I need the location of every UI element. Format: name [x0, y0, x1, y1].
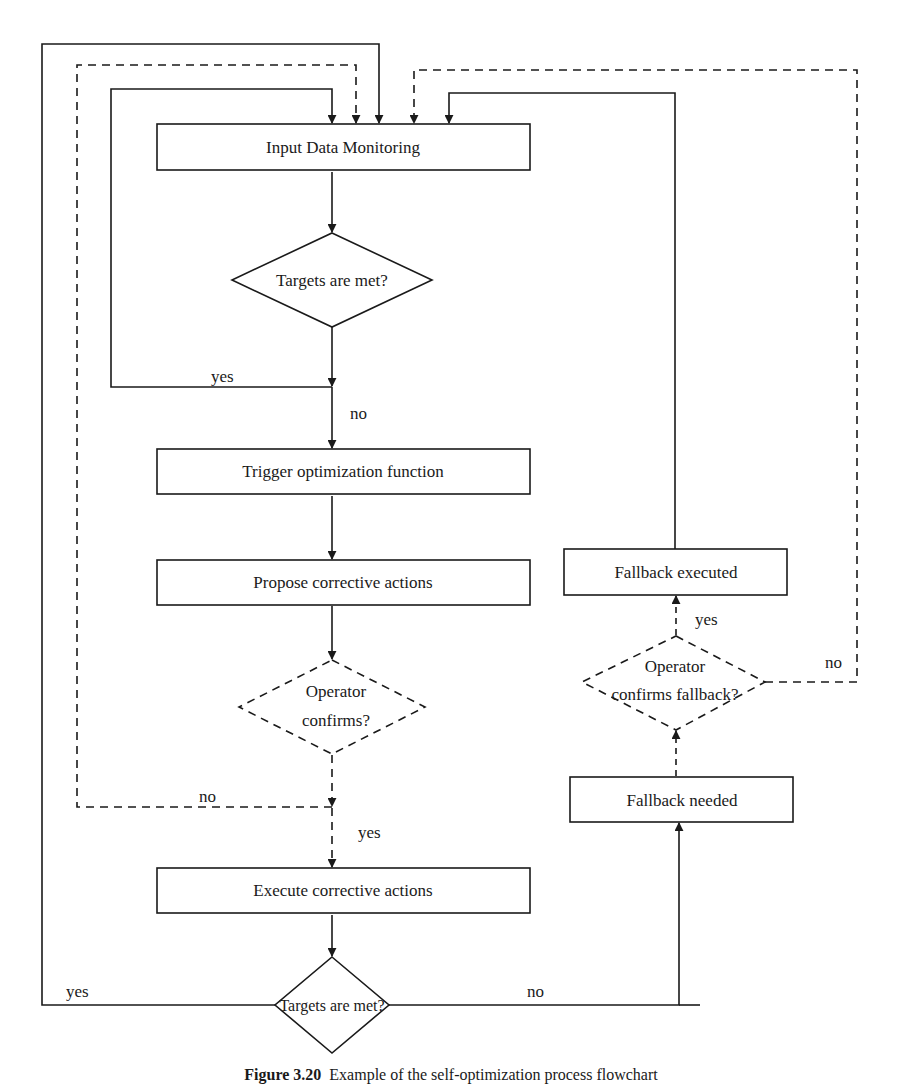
- figure-caption-text: Example of the self-optimization process…: [329, 1066, 657, 1083]
- edge-d3-no-to-fallback: [389, 823, 679, 1005]
- input-monitoring-label: Input Data Monitoring: [266, 138, 420, 157]
- d4-no-label: no: [825, 653, 842, 672]
- d1-yes-label: yes: [211, 367, 234, 386]
- d2-yes-label: yes: [358, 823, 381, 842]
- operator-confirms-fallback-label-2: confirms fallback?: [612, 685, 739, 704]
- figure-number: Figure 3.20: [244, 1066, 321, 1083]
- trigger-optimization-label: Trigger optimization function: [242, 462, 444, 481]
- propose-actions-label: Propose corrective actions: [253, 573, 432, 592]
- operator-confirms-fallback-label-1: Operator: [645, 657, 706, 676]
- d1-no-label: no: [350, 404, 367, 423]
- d2-no-label: no: [199, 787, 216, 806]
- edge-d3-yes-loop: [42, 44, 379, 1005]
- targets-met-2-label: Targets are met?: [279, 997, 384, 1015]
- execute-actions-label: Execute corrective actions: [253, 881, 432, 900]
- targets-met-1-label: Targets are met?: [276, 271, 388, 290]
- operator-confirms-label-2: confirms?: [302, 711, 370, 730]
- operator-confirms-label-1: Operator: [306, 682, 367, 701]
- figure-caption: Figure 3.20 Example of the self-optimiza…: [0, 1066, 902, 1084]
- d3-yes-label: yes: [66, 982, 89, 1001]
- operator-confirms-fallback-diamond: [582, 636, 765, 730]
- flowchart: Input Data Monitoring Targets are met? T…: [0, 0, 902, 1089]
- operator-confirms-diamond: [239, 660, 425, 754]
- d4-yes-label: yes: [695, 610, 718, 629]
- fallback-needed-label: Fallback needed: [627, 791, 738, 810]
- d3-no-label: no: [527, 982, 544, 1001]
- fallback-executed-label: Fallback executed: [614, 563, 738, 582]
